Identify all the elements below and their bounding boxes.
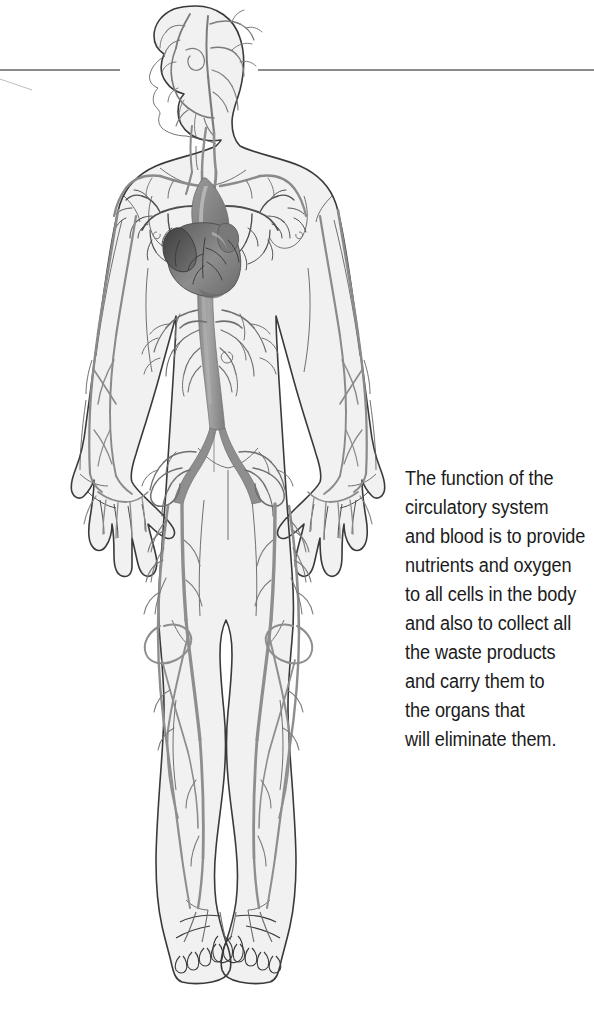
caption-line: the organs that <box>405 696 577 725</box>
caption-line: nutrients and oxygen <box>405 551 577 580</box>
caption-line: to all cells in the body <box>405 580 577 609</box>
caption-line: The function of the <box>405 464 577 493</box>
caption-line: and carry them to <box>405 667 577 696</box>
caption-line: circulatory system <box>405 493 577 522</box>
horizontal-rule <box>0 70 594 90</box>
caption-line: will eliminate them. <box>405 725 577 754</box>
caption-line: the waste products <box>405 638 577 667</box>
caption-text-block: The function of the circulatory system a… <box>405 464 590 754</box>
caption-line: and also to collect all <box>405 609 577 638</box>
caption-line: and blood is to provide <box>405 522 577 551</box>
diagram-page: The function of the circulatory system a… <box>0 0 594 1031</box>
